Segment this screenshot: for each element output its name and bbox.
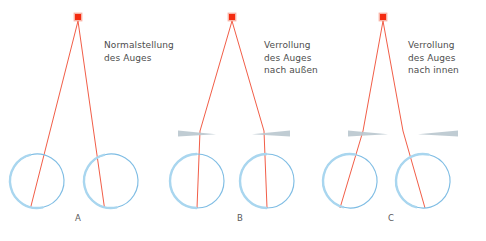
ray-right-b <box>232 21 267 208</box>
cornea-arc <box>170 154 197 208</box>
eye-right-c <box>391 149 456 214</box>
cornea-arc <box>318 149 356 208</box>
prism-right-b <box>252 131 290 137</box>
diagram-canvas <box>0 0 486 241</box>
panel-letter-b: B <box>230 213 250 223</box>
caption-panel-c: Verrollung des Auges nach innen <box>408 39 459 77</box>
panel-letter-a: A <box>68 213 88 223</box>
target-marker-a <box>75 14 81 20</box>
target-marker-c <box>380 14 386 20</box>
ray-left-b <box>197 21 232 208</box>
caption-panel-a: Normalstellung des Auges <box>104 39 174 64</box>
prism-right-c <box>418 131 458 137</box>
panel-letter-c: C <box>381 213 401 223</box>
cornea-arc <box>240 154 267 208</box>
prism-left-b <box>178 131 216 137</box>
eyeball-outline <box>318 149 383 214</box>
prism-left-c <box>348 131 388 137</box>
eye-convergence-diagram: Normalstellung des Auges Verrollung des … <box>0 0 486 241</box>
ray-right-a <box>78 21 105 208</box>
eyeball-outline <box>79 149 144 214</box>
eye-right-a <box>79 149 144 214</box>
eye-left-c <box>318 149 383 214</box>
eyeball-outline <box>391 149 456 214</box>
cornea-arc <box>5 155 43 214</box>
target-marker-b <box>229 14 235 20</box>
cornea-arc <box>391 149 429 208</box>
caption-panel-b: Verrollung des Auges nach außen <box>264 39 318 77</box>
ray-left-a <box>31 21 79 208</box>
